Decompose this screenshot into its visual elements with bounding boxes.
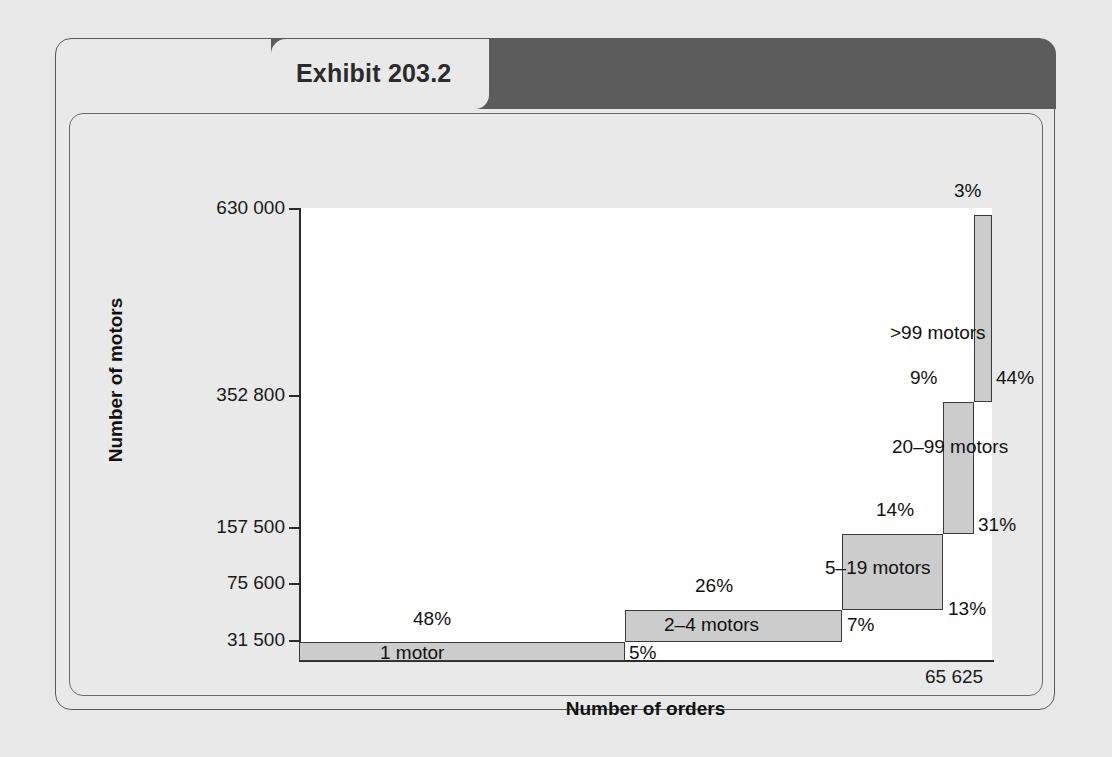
x-axis-title: Number of orders (299, 698, 992, 720)
y-axis-title: Number of motors (105, 270, 127, 490)
y-tick-mark-630000 (289, 208, 300, 210)
motor-pct-5-19-motors: 13% (948, 598, 986, 620)
y-axis-line (299, 208, 301, 662)
motor-pct-1-motor: 5% (629, 642, 656, 664)
plot-wrapper: 630 000 352 800 157 500 75 600 31 500 Nu… (70, 114, 1042, 695)
bar-20-99-motors[interactable] (943, 402, 974, 534)
exhibit-header-band: Exhibit 203.2 (271, 39, 1056, 109)
bar-1-motor[interactable] (299, 642, 625, 661)
x-axis-end-label: 65 625 (925, 666, 983, 688)
y-tick-label-630000: 630 000 (105, 197, 285, 219)
motor-pct-2-4-value: 7% (847, 614, 874, 635)
order-pct-2-4-motors: 26% (695, 575, 733, 597)
bar-over-99-motors[interactable] (974, 215, 992, 402)
motor-pct-over-99-motors: 44% (996, 367, 1034, 389)
order-pct-5-19-motors: 14% (876, 499, 914, 521)
bar-label-1-motor: 1 motor (380, 642, 444, 664)
order-pct-1-motor: 48% (413, 608, 451, 630)
bar-label-over-99-motors: >99 motors (890, 322, 986, 344)
exhibit-card: Exhibit 203.2 630 000 352 800 157 500 (55, 38, 1055, 710)
y-tick-label-31500: 31 500 (105, 629, 285, 651)
bar-label-20-99-motors: 20–99 motors (892, 436, 1008, 458)
y-tick-label-75600: 75 600 (105, 572, 285, 594)
motor-pct-2-4-motors: 7% (847, 614, 874, 636)
bar-label-5-19-motors: 5–19 motors (825, 557, 931, 579)
y-tick-mark-75600 (289, 583, 300, 585)
order-pct-20-99-motors: 9% (910, 367, 937, 389)
motor-pct-20-99-motors: 31% (978, 514, 1016, 536)
chart-panel: 630 000 352 800 157 500 75 600 31 500 Nu… (69, 113, 1043, 696)
bar-label-2-4-motors: 2–4 motors (664, 614, 759, 636)
order-pct-over-99-motors: 3% (954, 180, 981, 202)
exhibit-title-tab: Exhibit 203.2 (271, 39, 489, 109)
y-tick-mark-352800 (289, 395, 300, 397)
exhibit-title: Exhibit 203.2 (296, 59, 451, 88)
y-tick-mark-157500 (289, 527, 300, 529)
y-tick-label-352800: 352 800 (105, 384, 285, 406)
y-tick-label-157500: 157 500 (105, 516, 285, 538)
